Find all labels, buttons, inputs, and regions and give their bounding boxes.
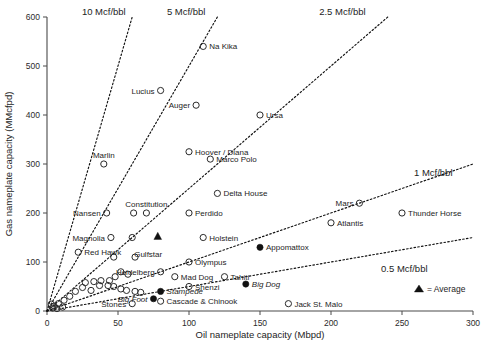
data-points [48,43,405,311]
point-unlabeled-42 [91,279,97,285]
y-tick-label: 300 [26,159,40,169]
label-appomattox: Appomattox [266,243,309,252]
x-tick-label: 100 [182,318,196,328]
y-axis-title: Gas nameplate capacity (MMcfpd) [3,92,14,237]
point-appomattox [257,244,263,250]
label-nansen: Nansen [73,209,101,218]
label-perdido: Perdido [195,209,223,218]
point-unlabeled-45 [79,284,85,290]
y-tick-label: 200 [26,208,40,218]
label-mad-dog: Mad Dog [181,273,213,282]
label-marco-polo: Marco Polo [216,155,257,164]
point-holstein [200,234,206,240]
label-big-dog: Big Dog [252,280,281,289]
label-holstein: Holstein [209,234,238,243]
point-unlabeled-32 [131,210,137,216]
point-unlabeled-48 [132,288,138,294]
point-jack-st-malo [285,301,291,307]
ratio-label-0-5-mcf-bbl: 0.5 Mcf/bbl [381,263,427,274]
label-na-kika: Na Kika [209,42,238,51]
point-marco-polo [207,156,213,162]
y-tick-label: 500 [26,61,40,71]
scatter-chart: 050100150200250300 0100200300400500600 O… [0,0,493,345]
point-stampede [158,288,164,294]
point-hoover-diana [186,149,192,155]
point-tahiti [221,274,227,280]
point-unlabeled-39 [111,283,117,289]
point-marlin [101,161,107,167]
x-axis-ticks: 050100150200250300 [45,311,481,328]
label-heidelberg: Heidelberg [116,268,155,277]
ratio-label-1-mcf-bbl: 1 Mcf/bbl [414,167,453,178]
point-unlabeled-47 [123,287,129,293]
point-mad-dog [172,274,178,280]
point-na-kika [200,43,206,49]
point-auger [193,102,199,108]
point-unlabeled-43 [88,287,94,293]
x-tick-label: 0 [45,318,50,328]
x-tick-label: 50 [113,318,123,328]
label-constitution: Constitution [125,200,167,209]
point-magnolia [108,234,114,240]
point-heidelberg [158,269,164,275]
label-marlin: Marlin [93,151,115,160]
label-stones: Stones [101,300,126,309]
legend-average-label: = Average [427,284,466,294]
legend: = Average [414,284,465,294]
plot-svg: 050100150200250300 0100200300400500600 O… [0,0,493,345]
ratio-label-10-mcf-bbl: 10 Mcf/bbl [82,6,126,17]
point-perdido [186,210,192,216]
point-ursa [257,112,263,118]
point-average [154,232,162,239]
label-olympus: Olympus [195,258,227,267]
point-unlabeled-52 [61,297,67,303]
point-unlabeled-50 [72,288,78,294]
x-tick-label: 150 [253,318,267,328]
point-big-dog [243,281,249,287]
label-cascade-chinook: Cascade & Chinook [167,297,239,306]
label-lucius: Lucius [131,87,154,96]
point-atlantis [328,220,334,226]
label-red-hawk: Red Hawk [84,248,122,257]
label-magnolia: Magnolia [72,234,105,243]
x-axis-title: Oil nameplate capacity (Mbpd) [196,329,325,340]
point-thunder-horse [399,210,405,216]
label-auger: Auger [169,101,191,110]
point-nansen [104,210,110,216]
point-lucius [158,87,164,93]
y-tick-label: 400 [26,110,40,120]
label-thunder-horse: Thunder Horse [408,209,462,218]
y-axis-ticks: 0100200300400500600 [26,12,47,316]
point-red-hawk [75,249,81,255]
point-delta-house [214,190,220,196]
point-unlabeled-51 [67,293,73,299]
x-tick-label: 250 [395,318,409,328]
legend-triangle-icon [414,285,423,292]
label-atlantis: Atlantis [337,219,363,228]
label-delta-house: Delta House [223,189,268,198]
label-mars: Mars [336,199,354,208]
y-tick-label: 0 [35,306,40,316]
point-cascade-chinook [158,298,164,304]
label-jack-st-malo: Jack St. Malo [294,300,343,309]
point-big-foot [150,296,156,302]
x-tick-label: 200 [324,318,338,328]
ratio-label-5-mcf-bbl: 5 Mcf/bbl [167,6,206,17]
x-tick-label: 300 [466,318,480,328]
point-unlabeled-57 [60,304,66,310]
label-stampede: Stampede [167,287,204,296]
ratio-label-2-5-mcf-bbl: 2.5 Mcf/bbl [319,6,365,17]
point-gulfstar [129,234,135,240]
y-tick-label: 600 [26,12,40,22]
label-tahiti: Tahiti [231,273,250,282]
point-constitution [143,210,149,216]
label-ursa: Ursa [266,111,283,120]
label-gulfstar: Gulfstar [134,250,162,259]
y-tick-label: 100 [26,257,40,267]
